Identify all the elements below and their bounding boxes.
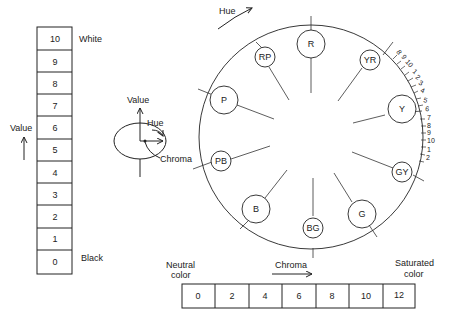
- chroma-leader: [145, 142, 160, 158]
- solid-chroma-label: Chroma: [160, 154, 192, 164]
- black-label: Black: [81, 253, 104, 263]
- hue-label-g: G: [358, 209, 365, 219]
- hue-node-p: P: [210, 86, 238, 114]
- munsell-solid-icon: Value Hue Chroma: [114, 95, 192, 177]
- chroma-axis-label: Chroma: [275, 260, 307, 270]
- hue-node-rp: RP: [255, 47, 275, 67]
- solid-hue-label: Hue: [147, 118, 164, 128]
- value-cell: 4: [52, 168, 57, 178]
- svg-text:5: 5: [423, 96, 429, 104]
- value-cell: 6: [52, 123, 57, 133]
- hue-circle-label: Hue: [219, 6, 236, 16]
- svg-text:2: 2: [426, 154, 430, 161]
- chroma-cell: 8: [329, 291, 334, 301]
- hue-label-r: R: [308, 39, 315, 49]
- value-cell: 1: [52, 234, 57, 244]
- value-cell: 0: [52, 257, 57, 267]
- chroma-cell: 6: [296, 291, 301, 301]
- svg-text:1: 1: [427, 146, 431, 153]
- hue-label-gy: GY: [395, 167, 408, 177]
- svg-text:10: 10: [427, 137, 435, 144]
- chroma-cell: 0: [195, 291, 200, 301]
- svg-text:4: 4: [420, 86, 426, 94]
- hue-circle: Hue: [193, 6, 435, 258]
- white-label: White: [79, 34, 102, 44]
- svg-text:8: 8: [395, 49, 403, 56]
- chroma-cell: 12: [394, 290, 404, 300]
- hue-node-g: G: [348, 200, 376, 228]
- chroma-cell: 4: [262, 291, 267, 301]
- saturated-label-line2: color: [404, 269, 424, 279]
- svg-text:7: 7: [427, 114, 431, 121]
- hue-node-yr: YR: [360, 50, 380, 70]
- chroma-scale: Neutral color Chroma Saturated color 0 2…: [166, 258, 434, 308]
- hue-node-y: Y: [388, 95, 416, 123]
- neutral-label-line1: Neutral: [166, 260, 195, 270]
- saturated-label-line1: Saturated: [395, 258, 434, 268]
- hue-label-p: P: [221, 95, 227, 105]
- value-axis-label: Value: [10, 123, 32, 133]
- chroma-cell: 2: [229, 291, 234, 301]
- neutral-label-line2: color: [171, 270, 191, 280]
- solid-value-label: Value: [127, 95, 149, 105]
- svg-text:6: 6: [425, 105, 430, 112]
- hue-label-bg: BG: [306, 223, 319, 233]
- hue-label-b: B: [253, 204, 259, 214]
- svg-text:3: 3: [418, 79, 425, 87]
- value-cell: 7: [52, 101, 57, 111]
- hue-label-yr: YR: [364, 55, 377, 65]
- value-cell: 8: [52, 79, 57, 89]
- value-cell: 9: [52, 57, 57, 67]
- hue-label-y: Y: [399, 104, 405, 114]
- hue-label-rp: RP: [259, 52, 272, 62]
- hue-node-b: B: [242, 195, 270, 223]
- chroma-cell: 10: [361, 291, 371, 301]
- hue-node-bg: BG: [303, 218, 323, 238]
- svg-text:8: 8: [427, 122, 431, 129]
- value-cell: 2: [52, 212, 57, 222]
- svg-text:9: 9: [427, 129, 431, 136]
- value-cell: 5: [52, 145, 57, 155]
- value-scale: 10 9 8 7 6 5 4 3 2 1 0 White Black Value: [10, 27, 104, 274]
- hue-label-pb: PB: [215, 156, 227, 166]
- value-cell: 3: [52, 190, 57, 200]
- hue-node-pb: PB: [211, 151, 231, 171]
- svg-text:10: 10: [404, 58, 414, 69]
- hue-node-r: R: [297, 30, 325, 58]
- hue-node-gy: GY: [392, 162, 412, 182]
- value-cell: 10: [50, 34, 60, 44]
